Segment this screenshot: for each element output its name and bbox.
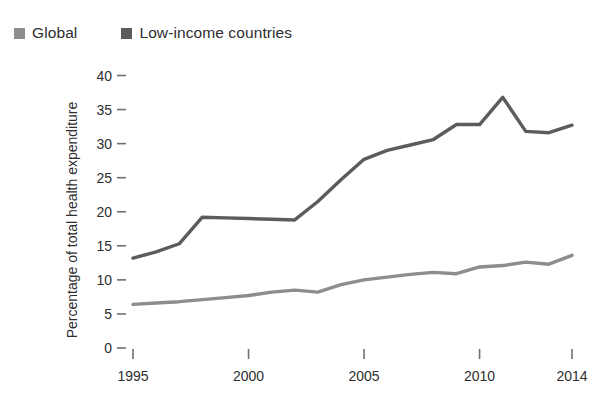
x-tick-label: 1995 [117, 368, 148, 384]
chart-plot-area: 0510152025303540 19952000200520102014 [0, 0, 615, 413]
x-tick-label: 2000 [233, 368, 264, 384]
y-tick-label: 10 [96, 272, 112, 288]
y-tick-label: 35 [96, 102, 112, 118]
x-axis-ticks: 19952000200520102014 [117, 349, 587, 384]
y-tick-label: 20 [96, 204, 112, 220]
x-tick-label: 2014 [556, 368, 587, 384]
x-tick-label: 2005 [348, 368, 379, 384]
y-tick-label: 0 [104, 340, 112, 356]
series-line-low-income-countries [133, 97, 572, 258]
y-tick-label: 15 [96, 238, 112, 254]
chart-series-lines [133, 97, 572, 304]
y-tick-label: 40 [96, 68, 112, 84]
y-axis-ticks: 0510152025303540 [96, 68, 126, 357]
y-tick-label: 5 [104, 306, 112, 322]
x-tick-label: 2010 [464, 368, 495, 384]
y-tick-label: 25 [96, 170, 112, 186]
series-line-global [133, 255, 572, 304]
chart-figure: Global Low-income countries Percentage o… [0, 0, 615, 413]
y-tick-label: 30 [96, 136, 112, 152]
